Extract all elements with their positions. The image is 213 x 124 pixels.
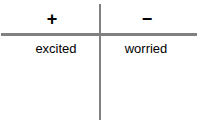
label-worried: worried bbox=[100, 41, 192, 57]
vertical-axis-line bbox=[99, 4, 101, 120]
label-excited: excited bbox=[10, 41, 102, 57]
positive-sign-symbol: + bbox=[22, 9, 82, 29]
valence-axis-diagram: + − excited worried bbox=[0, 0, 213, 124]
negative-sign-symbol: − bbox=[117, 9, 177, 29]
